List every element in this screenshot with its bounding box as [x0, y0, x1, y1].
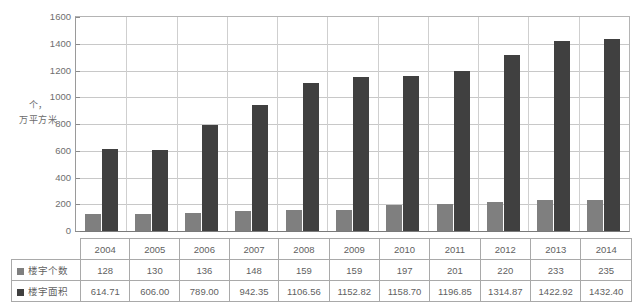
table-cell: 159	[279, 260, 329, 281]
y-axis-tick-mark	[76, 71, 80, 72]
table-cell: 201	[430, 260, 480, 281]
bar-楼宇个数-2007[interactable]	[235, 211, 251, 231]
bar-楼宇面积-2008[interactable]	[303, 83, 319, 231]
bar-楼宇个数-2014[interactable]	[587, 200, 603, 231]
bar-楼宇面积-2006[interactable]	[202, 125, 218, 231]
y-axis-tick-mark	[76, 151, 80, 152]
table-year-header: 2006	[180, 239, 230, 260]
gridline	[76, 71, 629, 72]
y-axis-tick-label: 400	[31, 172, 71, 183]
legend-label: 楼宇面积	[28, 286, 68, 297]
table-cell: 159	[329, 260, 379, 281]
bar-楼宇个数-2012[interactable]	[487, 202, 503, 231]
table-row-years: 2004200520062007200820092010201120122013…	[12, 239, 632, 260]
y-axis-tick-mark	[76, 231, 80, 232]
gridline	[76, 44, 629, 45]
y-axis-tick-mark	[76, 17, 80, 18]
y-axis-tick-label: 600	[31, 145, 71, 156]
table-cell: 1432.40	[581, 281, 632, 302]
table-year-header: 2013	[531, 239, 581, 260]
bar-楼宇面积-2014[interactable]	[604, 39, 620, 231]
bar-楼宇个数-2008[interactable]	[286, 210, 302, 231]
legend-label: 楼宇个数	[28, 265, 68, 276]
bar-楼宇个数-2013[interactable]	[537, 200, 553, 231]
table-cell: 130	[130, 260, 180, 281]
category-separator	[478, 17, 479, 231]
table-cell: 942.35	[229, 281, 279, 302]
y-axis-tick-mark	[76, 204, 80, 205]
table-cell: 136	[180, 260, 230, 281]
bar-楼宇个数-2004[interactable]	[85, 214, 101, 231]
y-axis-tick-mark	[76, 44, 80, 45]
table-cell: 1158.70	[379, 281, 429, 302]
y-axis-tick-label: 1600	[31, 11, 71, 22]
y-axis-tick-label: 1000	[31, 91, 71, 102]
table-row: 楼宇个数128130136148159159197201220233235	[12, 260, 632, 281]
table-cell: 606.00	[130, 281, 180, 302]
table-year-header: 2014	[581, 239, 632, 260]
legend-cell-楼宇面积[interactable]: 楼宇面积	[12, 281, 81, 302]
y-axis-tick-mark	[76, 178, 80, 179]
y-axis-tick-label: 200	[31, 198, 71, 209]
table-cell: 1314.87	[480, 281, 530, 302]
bar-楼宇个数-2006[interactable]	[185, 213, 201, 231]
table-year-header: 2004	[80, 239, 130, 260]
table-cell: 1152.82	[329, 281, 379, 302]
table-year-header: 2010	[379, 239, 429, 260]
category-separator	[579, 17, 580, 231]
plot-area: 02004006008001000120014001600	[75, 16, 630, 232]
table-cell: 1422.92	[531, 281, 581, 302]
table-year-header: 2011	[430, 239, 480, 260]
category-separator	[277, 17, 278, 231]
category-separator	[126, 17, 127, 231]
bar-楼宇面积-2012[interactable]	[504, 55, 520, 231]
bar-chart: 个， 万平方米 02004006008001000120014001600	[0, 0, 643, 240]
category-separator	[428, 17, 429, 231]
y-axis-tick-label: 1200	[31, 65, 71, 76]
chart-screenshot: 个， 万平方米 02004006008001000120014001600 20…	[0, 0, 643, 308]
bar-楼宇面积-2013[interactable]	[554, 41, 570, 231]
table-cell: 233	[531, 260, 581, 281]
table-year-header: 2009	[329, 239, 379, 260]
table-corner-cell	[12, 239, 81, 260]
legend-swatch-icon	[17, 268, 24, 275]
y-axis-tick-mark	[76, 97, 80, 98]
bar-楼宇个数-2011[interactable]	[437, 204, 453, 231]
y-axis-tick-label: 1400	[31, 38, 71, 49]
table-cell: 197	[379, 260, 429, 281]
category-separator	[177, 17, 178, 231]
legend-swatch-icon	[17, 289, 24, 296]
bar-楼宇面积-2007[interactable]	[252, 105, 268, 231]
table-cell: 1106.56	[279, 281, 329, 302]
y-axis-tick-label: 0	[31, 225, 71, 236]
legend-cell-楼宇个数[interactable]: 楼宇个数	[12, 260, 81, 281]
bar-楼宇面积-2009[interactable]	[353, 77, 369, 231]
bar-楼宇个数-2010[interactable]	[386, 205, 402, 231]
category-separator	[528, 17, 529, 231]
bar-楼宇面积-2011[interactable]	[454, 71, 470, 231]
table-cell: 220	[480, 260, 530, 281]
table-cell: 235	[581, 260, 632, 281]
bar-楼宇面积-2005[interactable]	[152, 150, 168, 231]
data-table: 2004200520062007200820092010201120122013…	[11, 238, 632, 302]
category-separator	[327, 17, 328, 231]
table-year-header: 2005	[130, 239, 180, 260]
table-cell: 789.00	[180, 281, 230, 302]
bar-楼宇个数-2009[interactable]	[336, 210, 352, 231]
table-year-header: 2012	[480, 239, 530, 260]
table-cell: 148	[229, 260, 279, 281]
y-axis-tick-mark	[76, 124, 80, 125]
category-separator	[227, 17, 228, 231]
bar-楼宇面积-2010[interactable]	[403, 76, 419, 231]
table-year-header: 2008	[279, 239, 329, 260]
bar-楼宇面积-2004[interactable]	[102, 149, 118, 231]
y-axis-tick-label: 800	[31, 118, 71, 129]
table-cell: 128	[80, 260, 130, 281]
table-year-header: 2007	[229, 239, 279, 260]
category-separator	[378, 17, 379, 231]
table-row: 楼宇面积614.71606.00789.00942.351106.561152.…	[12, 281, 632, 302]
table-cell: 1196.85	[430, 281, 480, 302]
bar-楼宇个数-2005[interactable]	[135, 214, 151, 231]
table-cell: 614.71	[80, 281, 130, 302]
